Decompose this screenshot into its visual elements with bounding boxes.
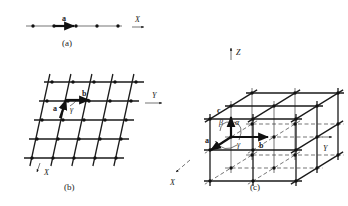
y-axis-label: Y [323, 144, 329, 153]
lattice-point [208, 117, 211, 120]
vector-b-label: b [259, 141, 264, 150]
caption-c: (c) [250, 182, 260, 192]
lattice-point [113, 80, 116, 83]
vector-a-label: a [205, 136, 209, 145]
z-axis-label: Z [236, 48, 241, 57]
lattice-point [251, 117, 254, 120]
lattice-point [95, 24, 98, 27]
lattice-point [272, 104, 275, 107]
lattice-point [293, 91, 296, 94]
x-axis-label: X [43, 168, 50, 177]
lattice-point [56, 137, 59, 140]
panel-c: Z Y X c b a β α γ (c) [169, 48, 344, 192]
lattice-point [124, 118, 127, 121]
lattice-point [74, 24, 77, 27]
x-axis-arrow [176, 160, 190, 172]
panel-b: a b γ Y X (b) [24, 74, 162, 192]
lattice-point [61, 118, 64, 121]
vector-b-label: b [82, 89, 87, 98]
lattice-point [50, 80, 53, 83]
lattice-point [30, 156, 33, 159]
lattice-figure: a X (a) a b γ Y X (b) Z Y X [0, 0, 348, 206]
lattice-point [229, 166, 232, 169]
lattice-point [82, 118, 85, 121]
lattice-point [294, 179, 297, 182]
vector-a [60, 100, 66, 118]
lattice-point [294, 117, 297, 120]
x-axis-label: X [169, 178, 176, 187]
caption-b: (b) [64, 182, 75, 192]
lattice-point [119, 137, 122, 140]
lattice-point [293, 122, 296, 125]
vector-c-label: c [217, 106, 221, 115]
lattice-point [315, 104, 318, 107]
lattice-point [229, 104, 232, 107]
lattice-point [336, 153, 339, 156]
lattice-point [108, 99, 111, 102]
panel-a: a X (a) [26, 14, 144, 48]
lattice-point [315, 166, 318, 169]
lattice-point [272, 166, 275, 169]
caption-a: (a) [62, 38, 72, 48]
x-axis-label: X [134, 15, 141, 24]
lattice-point [293, 153, 296, 156]
lattice-point [114, 156, 117, 159]
lattice-point [103, 118, 106, 121]
lattice-point [51, 156, 54, 159]
angle-gamma-label: γ [237, 140, 241, 149]
angle-gamma-label: γ [70, 105, 74, 114]
lattice-point [77, 137, 80, 140]
lattice-point [98, 137, 101, 140]
lattice-point [116, 24, 119, 27]
lattice-point [93, 156, 96, 159]
lattice-point [336, 91, 339, 94]
lattice-point [35, 137, 38, 140]
lattice-point [45, 99, 48, 102]
lattice-point [250, 122, 253, 125]
lattice-point [72, 156, 75, 159]
lattice-point [129, 99, 132, 102]
angle-beta-label: β [218, 118, 223, 127]
x-axis-arrow [37, 163, 40, 172]
lattice-point [31, 24, 34, 27]
lattice-point [134, 80, 137, 83]
grid-2d [24, 74, 144, 166]
lattice-point [251, 148, 254, 151]
lattice-point [250, 91, 253, 94]
vector-a-label: a [53, 104, 57, 113]
vector-a-label: a [62, 14, 66, 23]
lattice-point [336, 122, 339, 125]
lattice-point [294, 148, 297, 151]
lattice-point [40, 118, 43, 121]
lattice-point [250, 153, 253, 156]
lattice-point [272, 135, 275, 138]
vector-a [211, 137, 231, 150]
angle-gamma-arc [215, 141, 237, 149]
y-axis-label: Y [152, 91, 158, 100]
lattice-point [208, 179, 211, 182]
lattice-point [71, 80, 74, 83]
lattice-point [92, 80, 95, 83]
